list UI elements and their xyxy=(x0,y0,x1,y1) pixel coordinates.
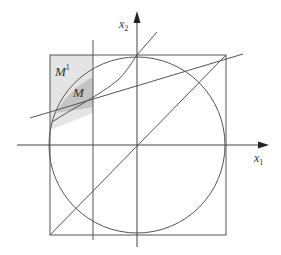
x1-axis xyxy=(17,142,269,149)
x1-arrow-icon xyxy=(258,142,269,149)
x2-axis-label: x2 xyxy=(118,17,128,33)
diagram-canvas: x2 x1 M1 M xyxy=(0,0,281,255)
x2-arrow-icon xyxy=(134,11,141,23)
region-m-label: M xyxy=(72,85,85,100)
x1-axis-label: x1 xyxy=(253,151,263,167)
x2-axis xyxy=(134,11,141,247)
